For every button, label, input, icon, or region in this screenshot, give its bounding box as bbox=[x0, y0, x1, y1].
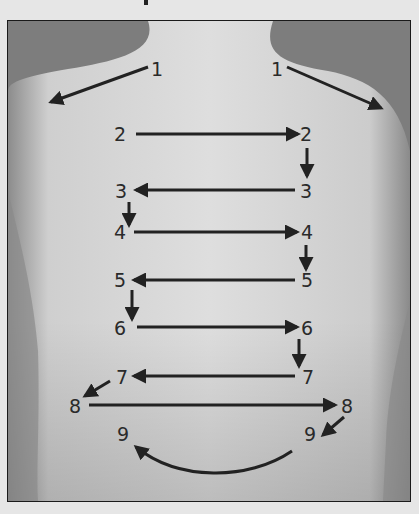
label-5-left: 5 bbox=[114, 269, 126, 291]
label-9-left: 9 bbox=[117, 423, 129, 445]
label-1-left: 1 bbox=[151, 58, 163, 80]
label-3-left: 3 bbox=[115, 180, 127, 202]
label-1-right: 1 bbox=[271, 58, 283, 80]
label-2-left: 2 bbox=[114, 123, 126, 145]
label-8-left: 8 bbox=[69, 395, 81, 417]
label-3-right: 3 bbox=[300, 180, 312, 202]
label-8-right: 8 bbox=[341, 395, 353, 417]
label-6-left: 6 bbox=[114, 317, 126, 339]
label-4-left: 4 bbox=[114, 221, 126, 243]
label-7-right: 7 bbox=[302, 366, 314, 388]
back-photo-frame: 1 1 2 2 3 3 4 4 5 5 6 6 7 7 8 8 9 9 bbox=[7, 20, 411, 502]
label-9-right: 9 bbox=[304, 423, 316, 445]
back-diagram: 1 1 2 2 3 3 4 4 5 5 6 6 7 7 8 8 9 9 bbox=[8, 21, 410, 501]
label-7-left: 7 bbox=[116, 366, 128, 388]
cropped-caption-fragment bbox=[144, 0, 148, 5]
label-5-right: 5 bbox=[301, 269, 313, 291]
label-6-right: 6 bbox=[301, 317, 313, 339]
label-4-right: 4 bbox=[301, 221, 313, 243]
label-2-right: 2 bbox=[300, 123, 312, 145]
